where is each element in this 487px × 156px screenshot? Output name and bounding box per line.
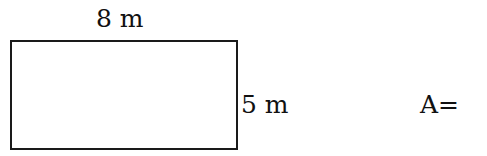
height-label: 5 m: [241, 92, 289, 117]
area-prompt: A=: [420, 92, 459, 117]
rectangle-shape: [10, 40, 238, 150]
width-label: 8 m: [96, 6, 144, 31]
